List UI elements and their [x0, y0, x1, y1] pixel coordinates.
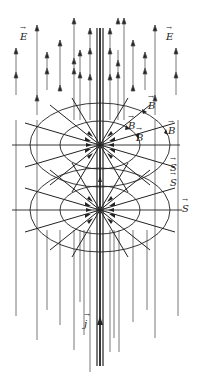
field-diagram [0, 0, 200, 388]
b-field-label-2: B [128, 121, 135, 131]
b-field-label-4: B [136, 133, 143, 143]
conductor [97, 28, 103, 366]
e-field-label-left: E [20, 32, 27, 42]
s-vector-label-2: S [170, 178, 177, 188]
s-vector-label-3: S [182, 204, 189, 214]
b-field-label-1: B [148, 101, 155, 111]
b-field-label-3: B [168, 126, 175, 136]
current-density-label: j [84, 319, 87, 329]
e-field-label-right: E [166, 32, 173, 42]
